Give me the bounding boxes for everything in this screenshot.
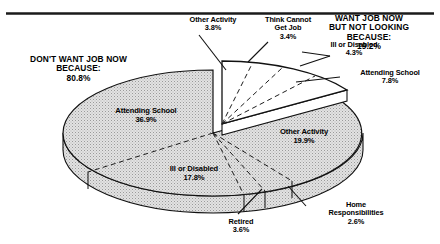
label-ill-or-disabled-main: Ill or Disabled 17.8% [146, 165, 242, 182]
label-attending-school-main: Attending School 36.9% [86, 107, 206, 124]
label-home-responsibilities: Home Responsibilities 2.6% [310, 201, 402, 226]
label-home-percent: 2.6% [310, 218, 402, 226]
label-attending-school-small: Attending School 7.8% [344, 69, 436, 86]
label-school-main-name: Attending School [115, 106, 176, 115]
group-header-dont-want-job: DON'T WANT JOB NOW BECAUSE: 80.8% [6, 55, 151, 83]
leader-other-activity-small [199, 35, 226, 70]
label-other-main-name: Other Activity [280, 127, 328, 136]
dont-want-percent: 80.8% [6, 74, 151, 83]
label-ill-or-disabled-small: Ill or Disabled 4.3% [316, 41, 392, 58]
leader-think-cannot [248, 42, 268, 62]
label-other-main-percent: 19.9% [254, 137, 354, 146]
label-think-cannot-get-job: Think Cannot Get Job 3.4% [252, 16, 324, 41]
label-think-cannot-line2: Get Job [275, 23, 302, 32]
label-ill-small-percent: 4.3% [316, 49, 392, 57]
label-retired-percent: 3.6% [212, 226, 270, 234]
label-think-cannot-percent: 3.4% [252, 33, 324, 41]
figure-container: DON'T WANT JOB NOW BECAUSE: 80.8% WANT J… [0, 0, 440, 244]
label-other-activity-small-percent: 3.8% [174, 24, 252, 32]
label-ill-main-percent: 17.8% [146, 174, 242, 183]
label-other-activity-small: Other Activity 3.8% [174, 16, 252, 33]
label-other-activity-main: Other Activity 19.9% [254, 128, 354, 145]
dont-want-title-line2: BECAUSE: [56, 63, 101, 73]
label-school-main-percent: 36.9% [86, 116, 206, 125]
label-school-small-percent: 7.8% [344, 77, 436, 85]
label-retired: Retired 3.6% [212, 218, 270, 235]
label-ill-main-name: Ill or Disabled [170, 164, 218, 173]
label-home-line2: Responsibilities [328, 208, 383, 217]
